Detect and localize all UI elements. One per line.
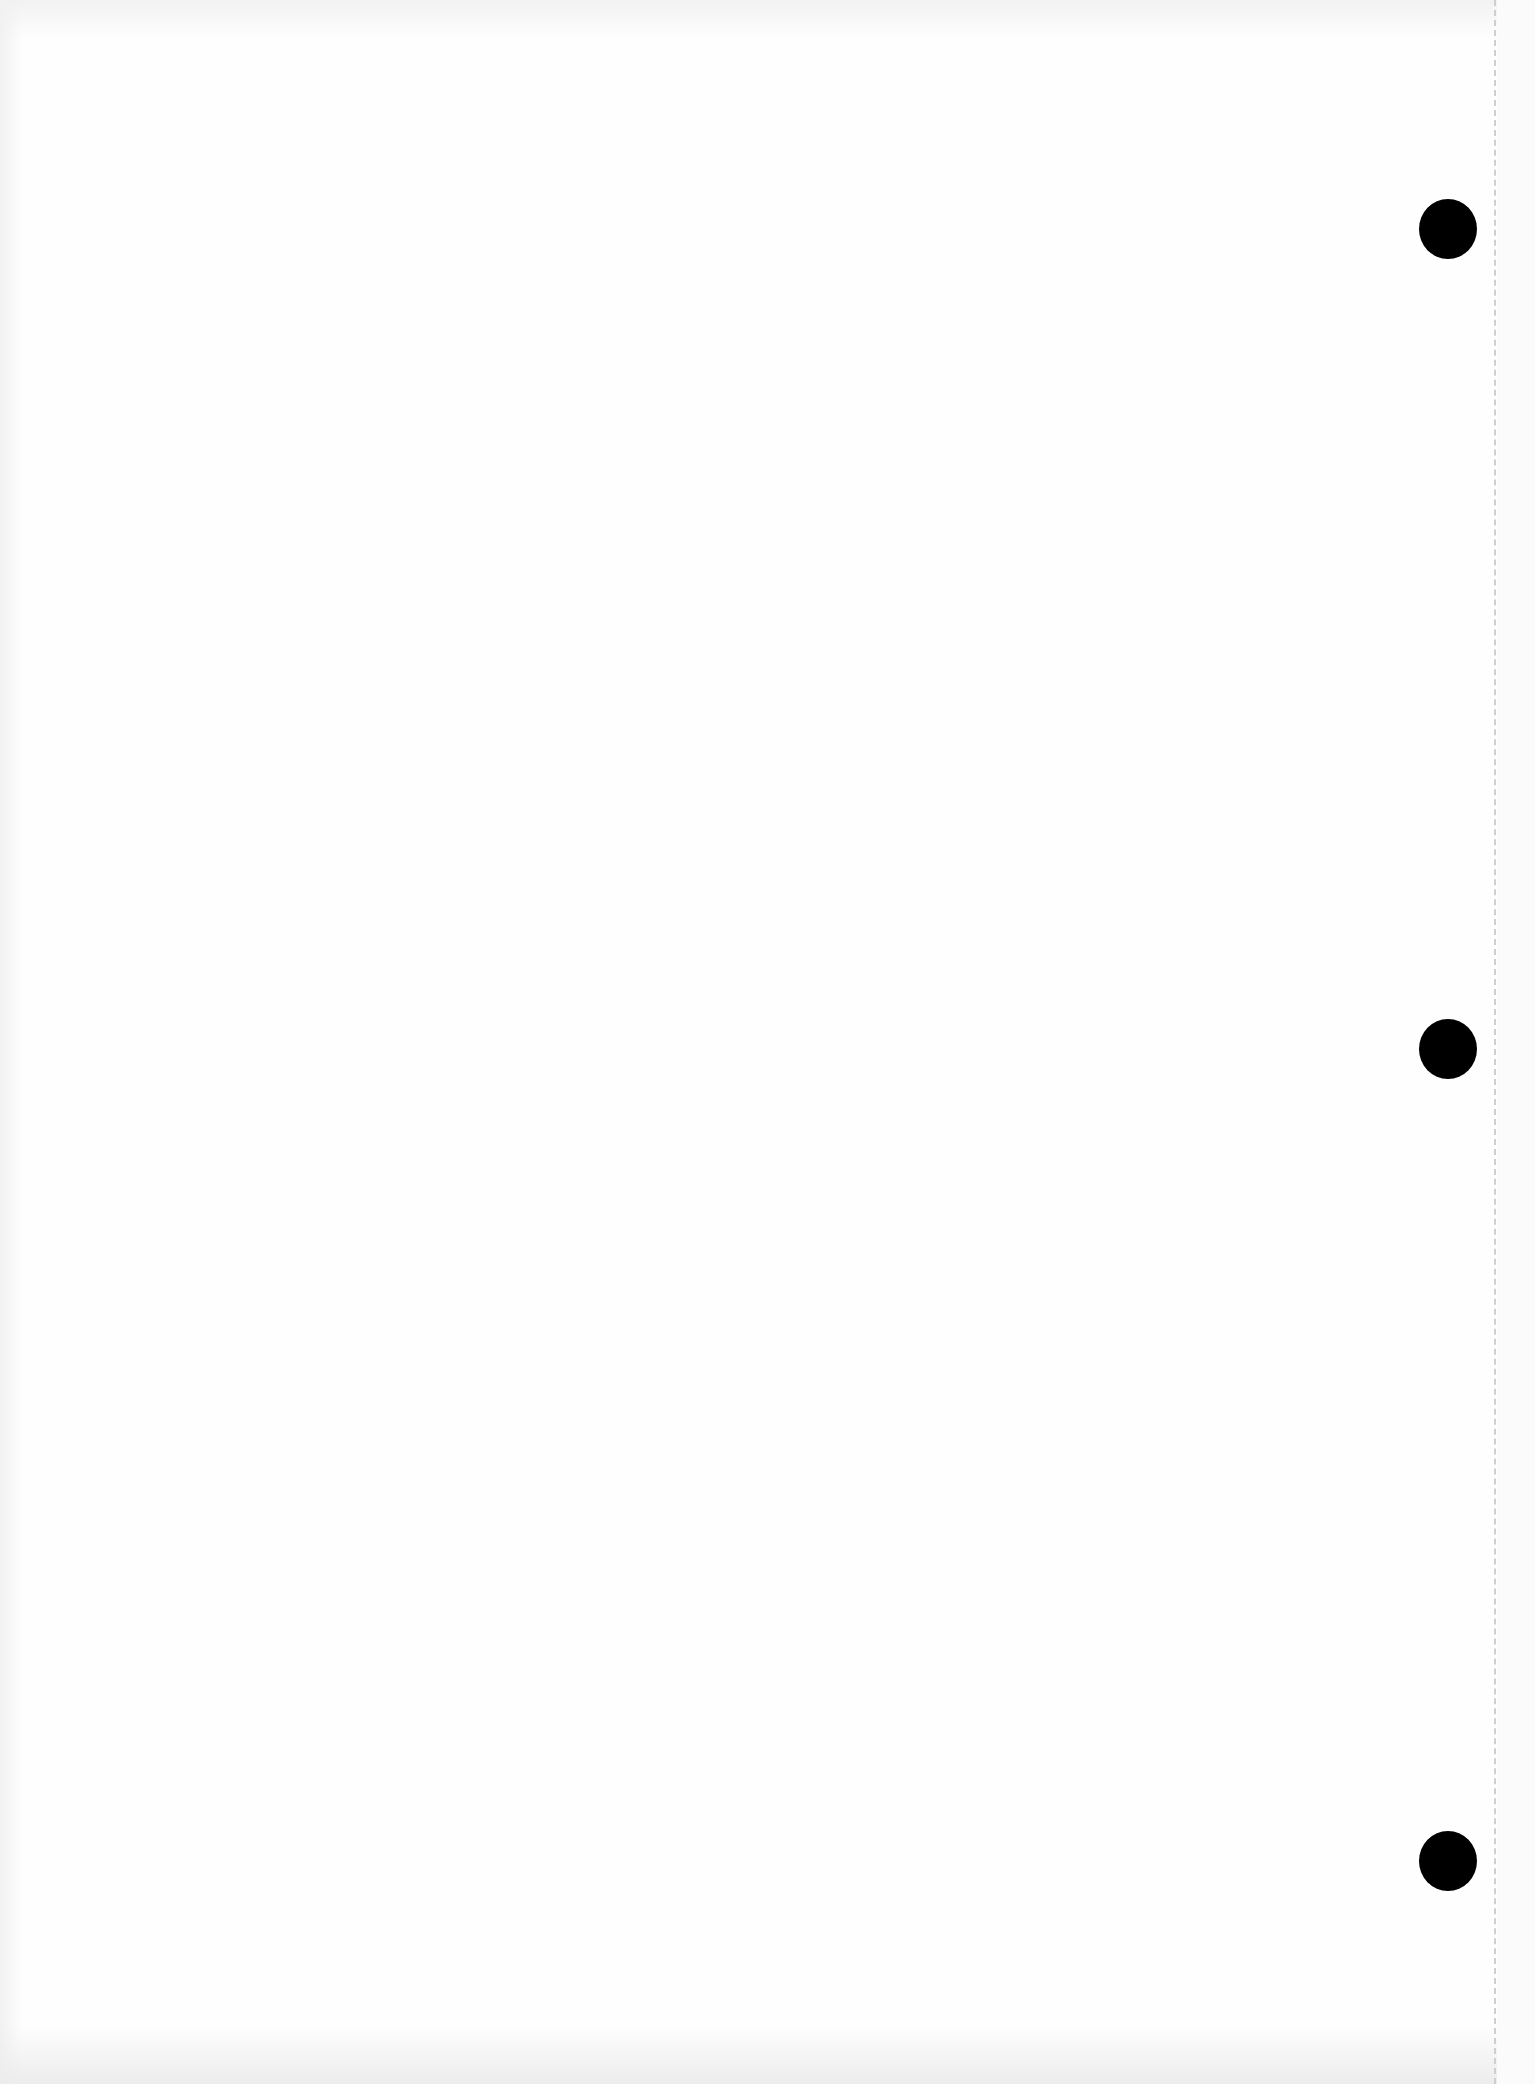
punch-hole-icon (1419, 1831, 1477, 1891)
punch-hole-icon (1419, 1019, 1477, 1079)
blank-page (0, 0, 1535, 2084)
perforation-line (1494, 0, 1496, 2084)
scan-shadow-left (0, 0, 22, 2084)
scan-shadow-top (0, 0, 1535, 40)
scan-shadow-bottom (0, 2024, 1535, 2084)
tear-off-strip (1497, 0, 1535, 2084)
punch-hole-icon (1419, 199, 1477, 259)
